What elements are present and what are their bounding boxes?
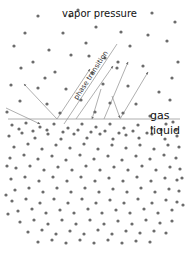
liquid-particle [38,125,41,128]
liquid-particle [131,129,134,132]
gas-particle [18,99,21,102]
liquid-particle [139,186,142,189]
liquid-particle [16,209,19,212]
liquid-particle [26,142,29,145]
gas-particle [94,25,97,28]
liquid-particle [64,241,67,244]
liquid-particle [68,146,71,149]
liquid-particle [86,207,89,210]
gas-particle [150,11,153,14]
gas-particle [128,44,131,47]
gas-particle [69,53,72,56]
condensation-left [6,108,40,124]
liquid-particle [156,211,159,214]
liquid-particle [76,128,79,131]
liquid-particle [89,130,92,133]
liquid-particle [23,175,26,178]
liquid-particle [32,218,35,221]
liquid-particle [14,166,17,169]
liquid-particle [78,238,81,241]
liquid-particle [50,154,53,157]
liquid-particle [96,147,99,150]
liquid-particle [8,156,11,159]
gas-particle [115,66,118,69]
liquid-particle [40,228,43,231]
gas-particle [53,70,56,73]
liquid-particle [66,126,69,129]
particle-trajectories [6,44,148,124]
gas-particle [101,82,104,85]
gas-particle [168,98,171,101]
liquid-particle [142,207,145,210]
liquid-particle [140,164,143,167]
liquid-particle [50,238,53,241]
liquid-particle [135,175,138,178]
liquid-particle [163,176,166,179]
liquid-particle [36,240,39,243]
liquid-particle [181,203,184,206]
liquid-particle [111,187,114,190]
liquid-particle [33,136,36,139]
liquid-particle [124,146,127,149]
liquid-particle [106,238,109,241]
liquid-particle [27,186,30,189]
liquid-particle [51,175,54,178]
liquid-particle [120,241,123,244]
liquid-particle [108,198,111,201]
liquid-particle [170,219,173,222]
condensation-right [112,96,120,118]
liquid-particle [116,219,119,222]
liquid-particle [79,175,82,178]
gas-particle [116,60,119,63]
gas-particle [157,90,160,93]
liquid-particle [82,232,85,235]
liquid-particle [130,222,133,225]
liquid-particle [70,168,73,171]
liquid-particle [64,158,67,161]
liquid-particle [45,128,48,131]
gas-particle [119,30,122,33]
vapor-pressure-label: vapor pressure [62,9,137,19]
liquid-particle [55,186,58,189]
liquid-particle [58,208,61,211]
liquid-particle [134,239,137,242]
liquid-particle [163,137,166,140]
liquid-particle [152,229,155,232]
liquid-particle [138,143,141,146]
liquid-particle [68,229,71,232]
liquid-particle [136,197,139,200]
liquid-particle [167,187,170,190]
liquid-particle [170,208,173,211]
liquid-particle [7,134,10,137]
liquid-particle [121,179,124,182]
vapor-pressure-diagram: vapor pressure gas liquid phase transiti… [0,0,188,261]
gas-particle [121,111,124,114]
liquid-particle [102,222,105,225]
gas-particle [36,14,39,17]
liquid-particle [148,157,151,160]
liquid-particle [100,211,103,214]
liquid-particle [110,143,113,146]
liquid-particle [40,147,43,150]
liquid-particle [83,186,86,189]
gas-particle [84,41,87,44]
liquid-particle [10,123,13,126]
liquid-particle [54,143,57,146]
liquid-particle [41,190,44,193]
liquid-particle [84,164,87,167]
liquid-particle [125,190,128,193]
liquid-particle [12,145,15,148]
liquid-particle [164,198,167,201]
liquid-particle [26,230,29,233]
gas-particle [108,101,111,104]
gas-particle [47,48,50,51]
condensation-mid [92,89,101,119]
liquid-particle [153,190,156,193]
liquid-particle [38,201,41,204]
liquid-particle [82,142,85,145]
liquid-particle [24,121,27,124]
liquid-particle [152,147,155,150]
liquid-particle [124,229,127,232]
liquid-particle [36,157,39,160]
liquid-particle [177,189,180,192]
